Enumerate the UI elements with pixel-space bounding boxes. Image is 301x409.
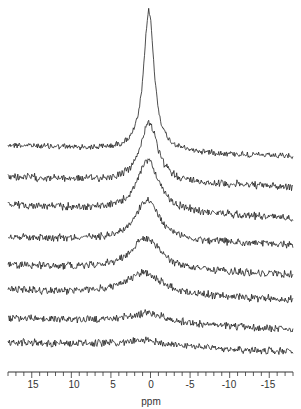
x-tick-label: 15	[27, 379, 38, 390]
x-tick-label: 0	[148, 379, 154, 390]
x-tick-label: 10	[68, 379, 79, 390]
x-tick-label: -5	[186, 379, 195, 390]
spectrum-trace	[8, 8, 293, 158]
spectrum-trace	[8, 120, 293, 190]
spectra-traces	[8, 8, 293, 354]
x-axis	[8, 372, 293, 378]
nmr-spectra-plot	[0, 0, 301, 409]
x-axis-title: ppm	[141, 396, 160, 407]
spectrum-trace	[8, 310, 293, 333]
x-tick-label: -10	[222, 379, 236, 390]
spectrum-trace	[8, 236, 293, 278]
spectrum-trace	[8, 159, 293, 222]
x-tick-label: 5	[110, 379, 116, 390]
spectrum-trace	[8, 337, 293, 355]
x-tick-label: -15	[261, 379, 275, 390]
